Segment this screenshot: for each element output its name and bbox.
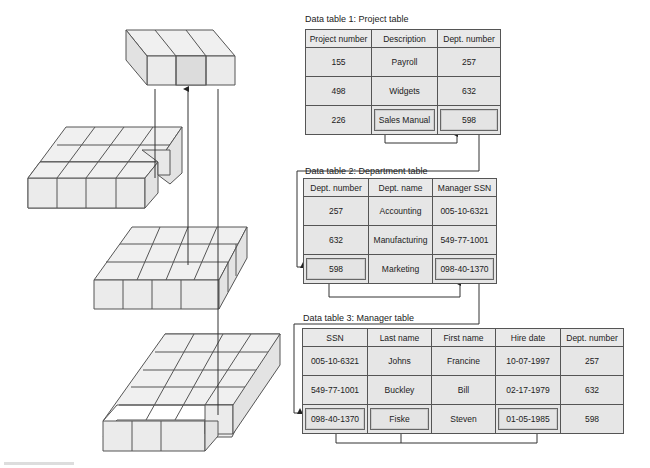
table-1-caption: Data table 1: Project table — [305, 14, 409, 24]
highlighted-cell: 098-40-1370 — [303, 405, 368, 434]
project-slice-block — [126, 30, 235, 85]
highlighted-cell-value: Fiske — [370, 408, 429, 430]
highlighted-cell-value: 01-05-1985 — [498, 408, 558, 430]
table-row: 098-40-1370 Fiske Steven 01-05-1985 598 — [303, 405, 624, 434]
table-cell: Johns — [368, 347, 432, 376]
highlighted-cell-value: 598 — [306, 258, 366, 280]
department-cube-block — [94, 227, 247, 309]
clipped-figure-caption — [4, 462, 74, 465]
table-row: 005-10-6321 Johns Francine 10-07-1997 25… — [303, 347, 624, 376]
table-cell: Bill — [432, 376, 496, 405]
column-header: Hire date — [496, 329, 561, 347]
highlighted-cell: 098-40-1370 — [433, 255, 497, 284]
table-cell: Widgets — [372, 77, 438, 106]
highlighted-cell-value: 598 — [440, 109, 498, 131]
highlighted-cell-value: 098-40-1370 — [305, 408, 365, 430]
highlighted-cell: 598 — [438, 106, 501, 135]
highlighted-cell-value: 098-40-1370 — [435, 258, 494, 280]
manager-table: SSN Last name First name Hire date Dept.… — [302, 328, 624, 434]
column-header: SSN — [303, 329, 368, 347]
table-cell: Steven — [432, 405, 496, 434]
highlighted-cell: Fiske — [368, 405, 432, 434]
table-cell: Marketing — [369, 255, 433, 284]
column-header: Dept. name — [369, 179, 433, 197]
table-row: 257 Accounting 005-10-6321 — [304, 197, 497, 226]
highlighted-cell: 598 — [304, 255, 369, 284]
project-table: Project number Description Dept. number … — [305, 29, 501, 135]
column-header: Project number — [306, 30, 372, 48]
table-cell: 549-77-1001 — [303, 376, 368, 405]
manager-cube-block — [103, 334, 280, 451]
highlighted-cell-value: Sales Manual — [374, 109, 435, 131]
table-cell: 005-10-6321 — [303, 347, 368, 376]
table-cell: 498 — [306, 77, 372, 106]
table-cell: 257 — [561, 347, 624, 376]
table-row: 598 Marketing 098-40-1370 — [304, 255, 497, 284]
table-cell: 632 — [561, 376, 624, 405]
table-2-caption: Data table 2: Department table — [305, 166, 428, 176]
project-cube-block — [28, 127, 182, 208]
table-3-caption: Data table 3: Manager table — [303, 313, 414, 323]
table-cell: 02-17-1979 — [496, 376, 561, 405]
column-header: Dept. number — [304, 179, 369, 197]
column-header: Dept. number — [561, 329, 624, 347]
table-cell: 632 — [438, 77, 501, 106]
table-cell: Manufacturing — [369, 226, 433, 255]
table-cell: 226 — [306, 106, 372, 135]
column-header: First name — [432, 329, 496, 347]
table-row: 632 Manufacturing 549-77-1001 — [304, 226, 497, 255]
table-cell: Francine — [432, 347, 496, 376]
column-header: Dept. number — [438, 30, 501, 48]
table-cell: 257 — [304, 197, 369, 226]
table-cell: 632 — [304, 226, 369, 255]
table-cell: 549-77-1001 — [433, 226, 497, 255]
table-cell: Payroll — [372, 48, 438, 77]
table-cell: 10-07-1997 — [496, 347, 561, 376]
highlighted-cell: Sales Manual — [372, 106, 438, 135]
table-cell: 598 — [561, 405, 624, 434]
table-cell: 257 — [438, 48, 501, 77]
column-header: Manager SSN — [433, 179, 497, 197]
highlighted-cell: 01-05-1985 — [496, 405, 561, 434]
table-row: 155 Payroll 257 — [306, 48, 501, 77]
column-header: Last name — [368, 329, 432, 347]
department-table: Dept. number Dept. name Manager SSN 257 … — [303, 178, 497, 284]
table-cell: 155 — [306, 48, 372, 77]
table-row: 226 Sales Manual 598 — [306, 106, 501, 135]
table-row: 549-77-1001 Buckley Bill 02-17-1979 632 — [303, 376, 624, 405]
table-cell: Buckley — [368, 376, 432, 405]
column-header: Description — [372, 30, 438, 48]
table-cell: Accounting — [369, 197, 433, 226]
table-row: 498 Widgets 632 — [306, 77, 501, 106]
table-cell: 005-10-6321 — [433, 197, 497, 226]
